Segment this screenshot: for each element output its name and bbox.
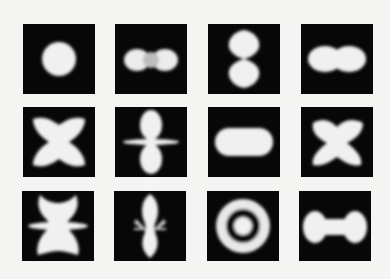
panel-dumbbell [299,191,371,261]
panel-horizontal-double-lobe [115,24,187,94]
panel-complex-multi-lobe [22,191,94,261]
panel-vertical-lobes-with-spikes [114,191,186,261]
panel-butterfly-2 [301,107,373,177]
panel-vertical-lobes-with-ring [115,107,187,177]
panel-horizontal-ellipse [208,107,280,177]
panel-horizontal-peanut [301,24,373,94]
panel-ring-with-center-dot [207,191,279,261]
panel-vertical-double-lobe [208,24,280,94]
panel-butterfly [23,107,95,177]
panel-sphere [23,24,95,94]
